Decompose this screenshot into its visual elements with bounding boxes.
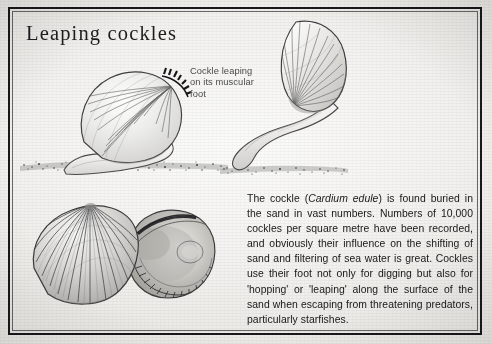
body-line-1a: The cockle ( xyxy=(247,193,308,204)
figure-caption: Cockle leaping on its muscular foot xyxy=(190,66,285,100)
illustration-shell-pair xyxy=(28,196,218,328)
body-line-7: their foot not only for digging but also… xyxy=(269,268,473,279)
caption-line-2: on its muscular xyxy=(190,77,254,87)
book-page: Leaping cockles Cockle leaping on its mu… xyxy=(0,0,492,344)
caption-line-3: foot xyxy=(190,89,206,99)
body-line-1b: ) is found xyxy=(378,193,425,204)
caption-line-1: Cockle leaping xyxy=(190,66,252,76)
species-name: Cardium edule xyxy=(308,193,378,204)
body-line-8: 'hopping' or 'leaping' along the surface… xyxy=(247,284,453,295)
page-title: Leaping cockles xyxy=(26,22,177,45)
body-text: The cockle (Cardium edule) is found buri… xyxy=(247,191,473,327)
illustration-standing-cockle xyxy=(52,56,212,181)
